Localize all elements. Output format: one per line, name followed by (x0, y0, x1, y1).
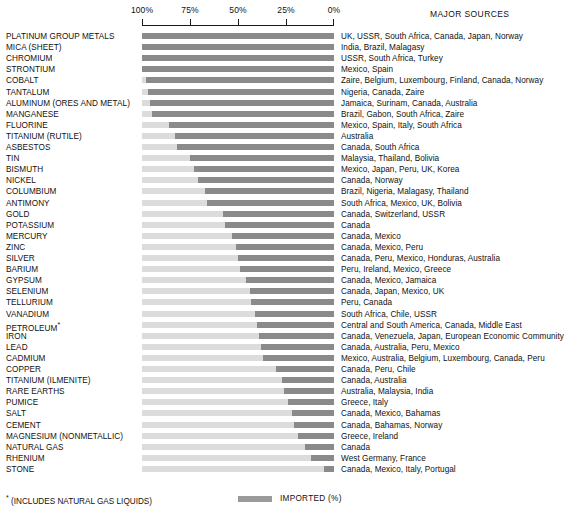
bar-fill-imported (250, 288, 334, 294)
row-sources: Malaysia, Thailand, Bolivia (341, 154, 439, 163)
row-label: COPPER (6, 365, 41, 374)
row-label: FLUORINE (6, 121, 48, 130)
chart-row: ASBESTOSCanada, South Africa (0, 142, 580, 153)
chart-row: CHROMIUMUSSR, South Africa, Turkey (0, 53, 580, 64)
row-label: TELLURIUM (6, 298, 53, 307)
chart-row: FLUORINEMexico, Spain, Italy, South Afri… (0, 120, 580, 131)
row-label: ASBESTOS (6, 143, 50, 152)
row-label: SILVER (6, 254, 35, 263)
bar-fill-imported (246, 277, 334, 283)
chart-row: MICA (SHEET)India, Brazil, Malagasy (0, 42, 580, 53)
bar-track-domestic (142, 410, 334, 416)
bar-fill-imported (169, 122, 334, 128)
bar-fill-imported (177, 144, 334, 150)
bar-track-domestic (142, 100, 334, 106)
chart-row: TITANIUM (ILMENITE)Canada, Australia (0, 375, 580, 386)
row-label: BISMUTH (6, 165, 43, 174)
bar-track-domestic (142, 89, 334, 95)
row-sources: Canada, Mexico, Italy, Portugal (341, 465, 456, 474)
row-label: LEAD (6, 343, 28, 352)
row-label: RHENIUM (6, 454, 45, 463)
row-sources: West Germany, France (341, 454, 426, 463)
bar-track-domestic (142, 455, 334, 461)
row-sources: Canada, Norway (341, 176, 403, 185)
chart-row: CADMIUMMexico, Australia, Belgium, Luxem… (0, 353, 580, 364)
row-sources: Canada, Australia (341, 376, 406, 385)
row-sources: Canada, Mexico, Jamaica (341, 276, 436, 285)
axis-tick-75 (190, 19, 191, 26)
axis-tick-50 (238, 19, 239, 26)
bar-track-domestic (142, 311, 334, 317)
row-label: RARE EARTHS (6, 387, 65, 396)
bar-fill-imported (142, 55, 334, 61)
legend-swatch-imported (238, 496, 272, 502)
row-label: SALT (6, 409, 26, 418)
row-label: TITANIUM (RUTILE) (6, 132, 82, 141)
chart-row: SALTCanada, Mexico, Bahamas (0, 408, 580, 419)
bar-track-domestic (142, 66, 334, 72)
chart-row: SELENIUMCanada, Japan, Mexico, UK (0, 286, 580, 297)
bar-track-domestic (142, 77, 334, 83)
row-label: SELENIUM (6, 287, 48, 296)
row-sources: Canada, South Africa (341, 143, 419, 152)
bar-track-domestic (142, 355, 334, 361)
footnote: * (INCLUDES NATURAL GAS LIQUIDS) (6, 494, 152, 506)
row-label: IRON (6, 332, 27, 341)
row-label: CADMIUM (6, 354, 45, 363)
row-sources: Peru, Ireland, Mexico, Greece (341, 265, 451, 274)
chart-row: MERCURYCanada, Mexico (0, 231, 580, 242)
row-label: ALUMINUM (ORES AND METAL) (6, 99, 130, 108)
row-sources: Canada, Japan, Mexico, UK (341, 287, 444, 296)
row-sources: Canada, Mexico, Peru (341, 243, 423, 252)
bar-track-domestic (142, 366, 334, 372)
bar-fill-imported (236, 244, 334, 250)
bar-track-domestic (142, 444, 334, 450)
chart-row: TINMalaysia, Thailand, Bolivia (0, 153, 580, 164)
chart-row: COLUMBIUMBrazil, Nigeria, Malagasy, Thai… (0, 186, 580, 197)
bar-track-domestic (142, 399, 334, 405)
bar-fill-imported (194, 166, 334, 172)
bar-fill-imported (255, 311, 334, 317)
row-sources: Greece, Ireland (341, 432, 398, 441)
row-label: STRONTIUM (6, 65, 55, 74)
bar-fill-imported (251, 299, 334, 305)
bar-track-domestic (142, 222, 334, 228)
bar-fill-imported (282, 377, 334, 383)
row-sources: Canada, Switzerland, USSR (341, 210, 445, 219)
legend-label-imported: IMPORTED (%) (280, 494, 342, 503)
bar-track-domestic (142, 344, 334, 350)
chart-row: NATURAL GASCanada (0, 442, 580, 453)
bar-fill-imported (152, 111, 334, 117)
row-label: COBALT (6, 76, 38, 85)
row-label: GYPSUM (6, 276, 42, 285)
chart-row: PETROLEUM*Central and South America, Can… (0, 320, 580, 331)
axis-tick-label-50: 50% (225, 5, 251, 15)
row-label: COLUMBIUM (6, 187, 57, 196)
bar-fill-imported (190, 155, 334, 161)
row-sources: Brazil, Gabon, South Africa, Zaire (341, 110, 464, 119)
chart-row: ALUMINUM (ORES AND METAL)Jamaica, Surina… (0, 98, 580, 109)
row-sources: Jamaica, Surinam, Canada, Australia (341, 99, 477, 108)
row-sources: Canada, Venezuela, Japan, European Econo… (341, 332, 564, 341)
bar-fill-imported (259, 333, 334, 339)
bar-track-domestic (142, 33, 334, 39)
axis-tick-label-75: 75% (177, 5, 203, 15)
bar-fill-imported (276, 366, 334, 372)
row-label: MAGNESIUM (NONMETALLIC) (6, 432, 123, 441)
row-label: NATURAL GAS (6, 443, 63, 452)
row-label: BARIUM (6, 265, 38, 274)
chart-row: CEMENTCanada, Bahamas, Norway (0, 420, 580, 431)
bar-fill-imported (324, 466, 334, 472)
bar-fill-imported (292, 410, 334, 416)
row-sources: Canada (341, 221, 370, 230)
bar-track-domestic (142, 233, 334, 239)
bar-track-domestic (142, 166, 334, 172)
row-sources: Mexico, Spain, Italy, South Africa (341, 121, 462, 130)
chart-row: ANTIMONYSouth Africa, Mexico, UK, Bolivi… (0, 198, 580, 209)
row-sources: UK, USSR, South Africa, Canada, Japan, N… (341, 32, 523, 41)
bar-track-domestic (142, 55, 334, 61)
chart-row: GOLDCanada, Switzerland, USSR (0, 209, 580, 220)
row-sources: Brazil, Nigeria, Malagasy, Thailand (341, 187, 469, 196)
row-label: ZINC (6, 243, 25, 252)
row-sources: Canada, Peru, Mexico, Honduras, Australi… (341, 254, 500, 263)
